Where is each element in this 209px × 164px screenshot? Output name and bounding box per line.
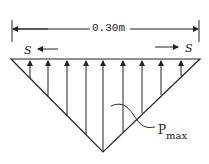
- dimension-label: 0.30m: [92, 22, 125, 34]
- pressure-arrows: [30, 61, 181, 152]
- pmax-label: Pmax: [158, 123, 188, 141]
- shear-label-left: S: [24, 44, 32, 57]
- shear-label-right: S: [185, 42, 193, 55]
- pressure-distribution-diagram: 0.30m S S Pmax: [0, 0, 209, 164]
